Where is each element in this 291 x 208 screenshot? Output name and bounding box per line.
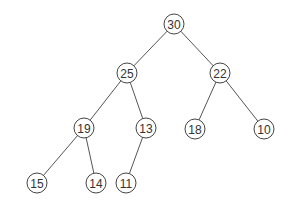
- tree-nodes: 30252219131810151411: [27, 14, 274, 193]
- tree-node-25: 25: [117, 63, 137, 83]
- tree-edge-19-14: [86, 138, 94, 173]
- tree-edges: [43, 31, 257, 175]
- tree-edge-13-11: [129, 137, 142, 173]
- tree-node-15: 15: [27, 173, 47, 193]
- node-label: 30: [167, 18, 181, 32]
- node-label: 10: [257, 123, 271, 137]
- tree-edge-30-22: [181, 31, 213, 65]
- node-label: 11: [120, 177, 133, 191]
- tree-node-14: 14: [86, 173, 106, 193]
- tree-node-10: 10: [254, 119, 274, 139]
- node-label: 18: [188, 123, 202, 137]
- binary-tree-diagram: 30252219131810151411: [0, 0, 291, 208]
- tree-edge-22-18: [199, 82, 216, 120]
- tree-edge-25-13: [130, 82, 142, 118]
- tree-node-11: 11: [116, 173, 136, 193]
- tree-edge-22-10: [226, 81, 258, 121]
- node-label: 13: [139, 122, 153, 136]
- tree-node-22: 22: [210, 63, 230, 83]
- tree-node-30: 30: [164, 14, 184, 34]
- node-label: 14: [89, 177, 103, 191]
- node-label: 22: [213, 67, 227, 81]
- tree-node-13: 13: [136, 118, 156, 138]
- tree-edge-30-25: [134, 31, 167, 66]
- node-label: 19: [77, 122, 91, 136]
- tree-node-18: 18: [185, 119, 205, 139]
- node-label: 25: [120, 67, 134, 81]
- node-label: 15: [30, 177, 44, 191]
- tree-edge-25-19: [90, 81, 121, 120]
- tree-edge-19-15: [43, 136, 77, 176]
- tree-node-19: 19: [74, 118, 94, 138]
